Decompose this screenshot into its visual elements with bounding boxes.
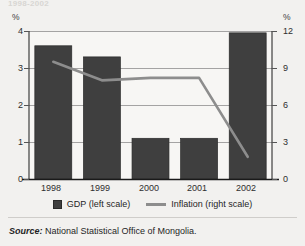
left-tick-label-4: 4 xyxy=(9,26,23,36)
right-tick-label-0: 0 xyxy=(283,174,297,184)
right-tick-label-9: 9 xyxy=(283,63,297,73)
source-label: Source: xyxy=(9,226,43,236)
right-tick-label-6: 6 xyxy=(283,100,297,110)
legend-label-gdp: GDP (left scale) xyxy=(67,199,130,209)
x-tick-label-1999: 1999 xyxy=(78,183,122,193)
right-tick-label-3: 3 xyxy=(283,137,297,147)
source-value: National Statistical Office of Mongolia. xyxy=(43,226,197,236)
right-tick-label-12: 12 xyxy=(283,26,297,36)
x-tick-label-2002: 2002 xyxy=(224,183,268,193)
x-tick-label-2001: 2001 xyxy=(175,183,219,193)
left-tick-label-1: 1 xyxy=(9,137,23,147)
left-tick-label-3: 3 xyxy=(9,63,23,73)
x-tick-label-2000: 2000 xyxy=(127,183,171,193)
legend-item-gdp: GDP (left scale) xyxy=(53,199,130,209)
line-swatch-icon xyxy=(146,203,166,206)
left-tick-label-0: 0 xyxy=(9,174,23,184)
chart-figure: 1998-2002 % % 4 3 2 1 0 12 9 6 3 0 1998 … xyxy=(0,0,305,246)
legend-label-inflation: Inflation (right scale) xyxy=(171,199,252,209)
bar-swatch-icon xyxy=(53,200,62,209)
legend-item-inflation: Inflation (right scale) xyxy=(146,199,252,209)
footer-divider xyxy=(8,217,297,218)
chart-legend: GDP (left scale) Inflation (right scale) xyxy=(0,196,305,212)
source-note: Source: National Statistical Office of M… xyxy=(9,226,196,236)
x-tick-label-1998: 1998 xyxy=(29,183,73,193)
left-tick-label-2: 2 xyxy=(9,100,23,110)
